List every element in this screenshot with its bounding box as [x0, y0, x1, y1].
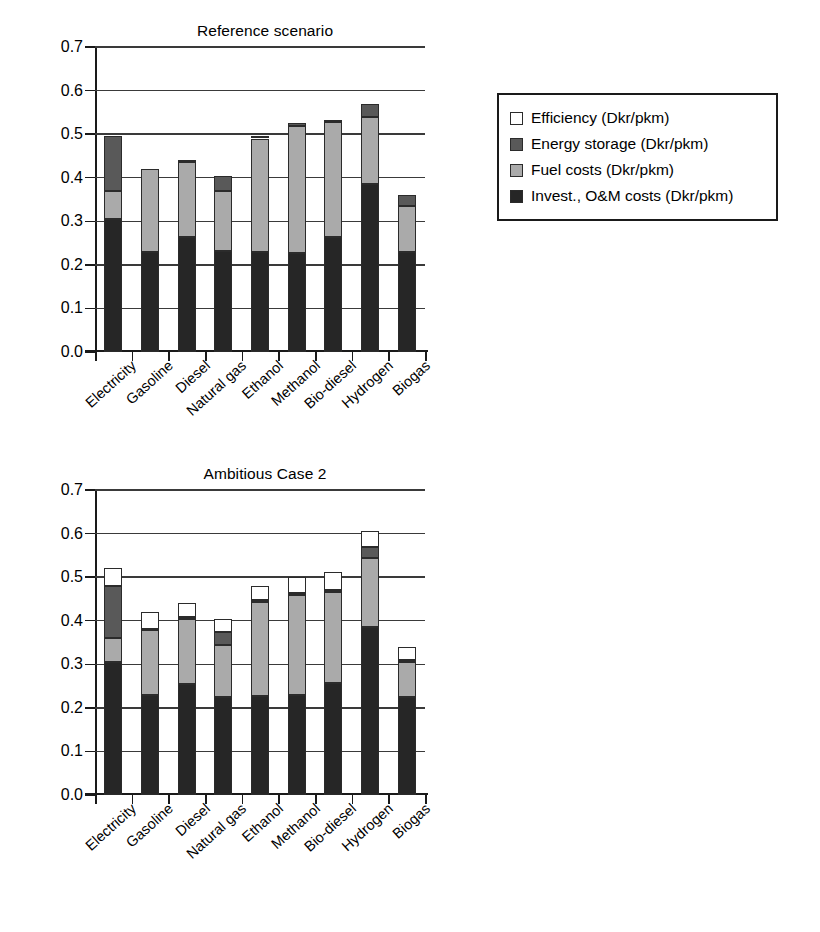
bar-segment: [288, 126, 306, 252]
bar-segment: [398, 697, 416, 795]
bar-segment: [141, 629, 159, 631]
bar-segment: [324, 122, 342, 237]
bar-segment: [251, 586, 269, 600]
y-tick-mark: [85, 308, 95, 310]
bar-natural-gas[interactable]: [214, 490, 232, 795]
bar-segment: [214, 251, 232, 352]
y-tick-mark: [85, 133, 95, 135]
plot-frame: 0.00.10.20.30.40.50.60.7: [95, 490, 425, 795]
bar-segment: [214, 176, 232, 190]
y-tick-mark: [85, 489, 95, 491]
y-tick-mark: [85, 751, 95, 753]
legend-item[interactable]: Energy storage (Dkr/pkm): [510, 131, 766, 157]
bar-ethanol[interactable]: [251, 47, 269, 352]
bar-segment: [251, 139, 269, 252]
bar-segment: [288, 123, 306, 126]
bar-segment: [104, 586, 122, 638]
bar-segment: [178, 603, 196, 617]
legend-item[interactable]: Fuel costs (Dkr/pkm): [510, 157, 766, 183]
bar-biogas[interactable]: [398, 47, 416, 352]
y-tick-label: 0.6: [61, 83, 83, 99]
legend-swatch-icon: [510, 138, 523, 151]
bar-diesel[interactable]: [178, 47, 196, 352]
y-tick-label: 0.1: [61, 743, 83, 759]
legend-swatch-icon: [510, 164, 523, 177]
bar-segment: [251, 600, 269, 602]
y-tick-label: 0.1: [61, 300, 83, 316]
y-tick-mark: [85, 46, 95, 48]
bar-gasoline[interactable]: [141, 47, 159, 352]
bar-bio-diesel[interactable]: [324, 47, 342, 352]
bar-diesel[interactable]: [178, 490, 196, 795]
legend-item[interactable]: Invest., O&M costs (Dkr/pkm): [510, 183, 766, 209]
bar-segment: [288, 593, 306, 595]
y-tick-mark: [85, 90, 95, 92]
y-tick-label: 0.2: [61, 257, 83, 273]
bar-segment: [104, 638, 122, 662]
bar-segment: [361, 531, 379, 546]
bar-segment: [141, 612, 159, 629]
bar-segment: [361, 117, 379, 185]
bar-segment: [104, 136, 122, 190]
bar-methanol[interactable]: [288, 490, 306, 795]
bar-electricity[interactable]: [104, 490, 122, 795]
bar-segment: [214, 645, 232, 697]
bar-segment: [251, 602, 269, 696]
bar-segment: [288, 595, 306, 694]
chart-title: Reference scenario: [100, 22, 430, 40]
y-tick-mark: [85, 351, 95, 353]
legend-label: Fuel costs (Dkr/pkm): [531, 162, 674, 178]
plot-area: 0.00.10.20.30.40.50.60.7 ElectricityGaso…: [95, 47, 425, 352]
bar-gasoline[interactable]: [141, 490, 159, 795]
bar-segment: [361, 104, 379, 117]
legend-label: Efficiency (Dkr/pkm): [531, 110, 669, 126]
bar-segment: [361, 558, 379, 628]
bar-segment: [324, 683, 342, 795]
bar-segment: [141, 695, 159, 795]
bar-segment: [398, 660, 416, 662]
y-tick-mark: [85, 533, 95, 535]
bar-bio-diesel[interactable]: [324, 490, 342, 795]
y-tick-label: 0.5: [61, 569, 83, 585]
x-axis-labels: ElectricityGasolineDieselNatural gasEtha…: [95, 352, 425, 447]
y-tick-label: 0.4: [61, 613, 83, 629]
bar-segment: [324, 120, 342, 122]
bar-segment: [398, 647, 416, 660]
bar-hydrogen[interactable]: [361, 490, 379, 795]
bar-segment: [178, 617, 196, 619]
x-axis-label: Biogas: [390, 358, 433, 398]
bar-segment: [104, 662, 122, 795]
bar-segment: [251, 136, 269, 138]
legend-label: Invest., O&M costs (Dkr/pkm): [531, 188, 733, 204]
bar-segment: [324, 592, 342, 683]
bar-biogas[interactable]: [398, 490, 416, 795]
legend-swatch-icon: [510, 112, 523, 125]
bar-ethanol[interactable]: [251, 490, 269, 795]
bar-segment: [214, 191, 232, 251]
figure-page: Reference scenario 0.00.10.20.30.40.50.6…: [0, 0, 820, 932]
bar-segment: [178, 237, 196, 352]
bar-segment: [398, 195, 416, 206]
bar-segment: [361, 547, 379, 558]
bar-segment: [288, 577, 306, 594]
bar-electricity[interactable]: [104, 47, 122, 352]
bar-hydrogen[interactable]: [361, 47, 379, 352]
bar-segment: [361, 627, 379, 795]
bars-layer: [95, 47, 425, 352]
y-tick-mark: [85, 177, 95, 179]
bars-layer: [95, 490, 425, 795]
y-tick-label: 0.6: [61, 526, 83, 542]
bar-segment: [398, 252, 416, 352]
bar-segment: [104, 568, 122, 585]
bar-methanol[interactable]: [288, 47, 306, 352]
bar-segment: [141, 630, 159, 694]
bar-segment: [288, 253, 306, 352]
bar-segment: [288, 695, 306, 795]
bar-natural-gas[interactable]: [214, 47, 232, 352]
y-tick-mark: [85, 221, 95, 223]
legend-item[interactable]: Efficiency (Dkr/pkm): [510, 105, 766, 131]
y-tick-label: 0.3: [61, 656, 83, 672]
bar-segment: [104, 191, 122, 219]
x-axis-labels: ElectricityGasolineDieselNatural gasEtha…: [95, 795, 425, 890]
bar-segment: [141, 169, 159, 252]
